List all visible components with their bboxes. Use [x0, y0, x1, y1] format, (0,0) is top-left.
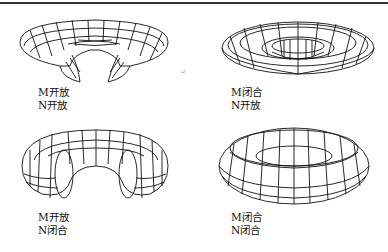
panel-m-open-n-closed: M开放 N闭合 [0, 126, 194, 252]
panel-m-closed-n-closed: M闭合 N闭合 [194, 126, 388, 252]
torus-diagram-cut [0, 126, 194, 252]
torus-diagram-half-open [0, 0, 194, 126]
label-n-state: N闭合 [38, 224, 67, 237]
label-n-state: N开放 [38, 99, 67, 112]
torus-diagram-flat-ring [194, 0, 388, 126]
panel-m-closed-n-open: M闭合 N开放 [194, 0, 388, 126]
label-m-state: M闭合 [231, 211, 262, 224]
label-m-state: M开放 [38, 86, 69, 99]
label-m-state: M开放 [38, 211, 69, 224]
torus-diagram-full [194, 126, 388, 252]
label-n-state: N闭合 [231, 224, 260, 237]
label-n-state: N开放 [231, 99, 260, 112]
label-m-state: M闭合 [231, 86, 262, 99]
panel-m-open-n-open: M开放 N开放 [0, 0, 194, 126]
